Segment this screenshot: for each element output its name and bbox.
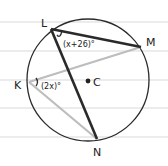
angle-label-l: (x+26)° (63, 40, 95, 49)
point-label-n: N (93, 146, 101, 159)
chord-kn (29, 82, 97, 139)
angle-label-k: (2x)° (41, 82, 61, 91)
center-point (86, 79, 91, 84)
point-label-k: K (14, 79, 22, 92)
circle-diagram: L M K N C (x+26)° (2x)° (0, 0, 168, 166)
chord-km (29, 47, 141, 82)
point-label-m: M (146, 36, 156, 49)
point-label-l: L (41, 17, 48, 30)
angle-arc-k (36, 78, 38, 86)
center-label: C (93, 76, 101, 89)
